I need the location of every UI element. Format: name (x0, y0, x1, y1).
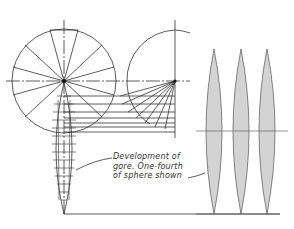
gores (206, 49, 275, 214)
side-view-arc (127, 30, 190, 82)
caption-line-3: of sphere shown (113, 171, 183, 181)
caption: Development of gore. One-fourth of spher… (113, 152, 183, 181)
caption-line-1: Development of (113, 152, 183, 162)
caption-line-2: gore. One-fourth (113, 162, 183, 172)
leader-line (76, 158, 112, 170)
diagram-drawing (0, 0, 294, 229)
leader-line-right (188, 173, 205, 178)
gore-development-diagram: Development of gore. One-fourth of spher… (0, 0, 294, 229)
